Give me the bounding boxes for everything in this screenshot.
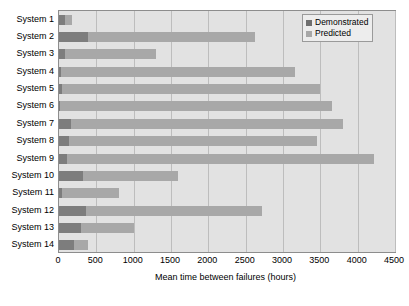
bar-row [59,49,156,59]
bar-segment-predicted [81,223,134,233]
bar-row [59,101,332,111]
y-axis-label: System 3 [0,48,54,58]
bar-segment-predicted [69,136,318,146]
bar-segment-demonstrated [59,171,83,181]
bar-row [59,136,317,146]
x-axis-tick-label: 3500 [309,255,329,265]
y-axis-label: System 4 [0,66,54,76]
x-axis-tick-label: 0 [55,255,60,265]
x-axis-tick-label: 2000 [197,255,217,265]
x-axis-tick-label: 500 [88,255,103,265]
x-axis-tick-label: 2500 [235,255,255,265]
y-axis-label: System 12 [0,205,54,215]
legend-item-demonstrated: Demonstrated [306,17,368,28]
y-axis-label: System 2 [0,31,54,41]
bar-segment-predicted [83,171,178,181]
bar-segment-predicted [88,32,255,42]
gridline-4000 [358,11,359,252]
bar-segment-predicted [65,15,71,25]
gridline-3500 [320,11,321,252]
bar-row [59,223,134,233]
bar-row [59,119,343,129]
bar-segment-predicted [71,119,343,129]
bar-segment-predicted [86,206,262,216]
legend-swatch-demonstrated [306,20,312,26]
legend-item-predicted: Predicted [306,28,368,39]
bar-segment-predicted [65,49,156,59]
chart-container: System 1System 2System 3System 4System 5… [0,0,409,306]
x-axis-ticks: 050010001500200025003000350040004500 [58,255,396,269]
bar-segment-demonstrated [59,119,71,129]
y-axis-label: System 10 [0,170,54,180]
gridline-1000 [134,11,135,252]
y-axis-label: System 14 [0,239,54,249]
bar-segment-predicted [62,188,119,198]
bar-row [59,188,119,198]
bar-segment-demonstrated [59,206,86,216]
plot-area [58,10,396,253]
bar-segment-demonstrated [59,223,81,233]
x-axis-title: Mean time between failures (hours) [0,272,409,282]
gridline-1500 [171,11,172,252]
y-axis-label: System 7 [0,118,54,128]
x-axis-tick-label: 4500 [384,255,404,265]
bar-segment-demonstrated [59,136,69,146]
gridline-2500 [246,11,247,252]
bar-row [59,67,295,77]
bar-row [59,240,88,250]
y-axis-label: System 1 [0,14,54,24]
x-axis-tick-label: 1500 [160,255,180,265]
bar-segment-demonstrated [59,240,74,250]
bar-row [59,154,374,164]
bar-row [59,84,320,94]
bar-row [59,32,255,42]
gridline-4500 [395,11,396,252]
bar-segment-predicted [62,84,320,94]
x-axis-tick-label: 4000 [347,255,367,265]
gridline-2000 [208,11,209,252]
gridline-500 [96,11,97,252]
x-axis-tick-label: 3000 [272,255,292,265]
bar-segment-predicted [61,67,295,77]
y-axis-label: System 5 [0,83,54,93]
legend-label-demonstrated: Demonstrated [315,17,368,28]
gridline-3000 [283,11,284,252]
chart-legend: Demonstrated Predicted [302,14,373,42]
bar-segment-predicted [67,154,374,164]
y-axis-label: System 11 [0,187,54,197]
y-axis-label: System 9 [0,153,54,163]
bar-row [59,206,262,216]
bar-segment-demonstrated [59,154,67,164]
bar-row [59,171,178,181]
x-axis-title-text: Mean time between failures (hours) [155,272,296,282]
bar-row [59,15,72,25]
legend-swatch-predicted [306,31,312,37]
y-axis-label: System 13 [0,222,54,232]
y-axis-label: System 8 [0,135,54,145]
y-axis-label: System 6 [0,100,54,110]
bar-segment-predicted [60,101,331,111]
bar-segment-predicted [74,240,88,250]
y-axis-labels: System 1System 2System 3System 4System 5… [0,10,54,253]
x-axis-tick-label: 1000 [123,255,143,265]
legend-label-predicted: Predicted [315,28,351,39]
bar-segment-demonstrated [59,32,88,42]
